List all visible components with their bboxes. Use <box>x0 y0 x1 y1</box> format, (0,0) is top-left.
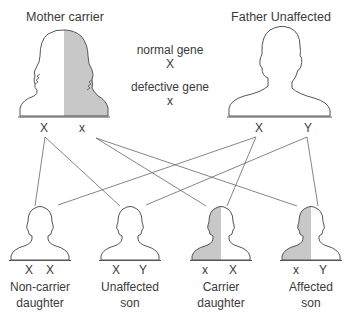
x-linked-inheritance-diagram: Mother carrier Father Unaffected normal … <box>0 0 347 315</box>
child-4-name-line1: Affected <box>271 279 347 296</box>
child-head-carrier-daughter <box>190 207 252 261</box>
father-title: Father Unaffected <box>228 10 334 24</box>
legend-normal-label: normal gene <box>120 43 220 57</box>
legend-defective-symbol: x <box>120 94 220 108</box>
line-father-X-to-carrier-daughter <box>227 137 256 206</box>
line-mother-X-to-noncarrier-daughter <box>35 137 45 206</box>
child-1-allele-1: X <box>19 263 39 277</box>
child-head-unaffected-son <box>99 207 161 261</box>
child-3-name-line1: Carrier <box>181 279 261 296</box>
child-3-name-line2: daughter <box>181 295 261 312</box>
mother-silhouette <box>18 30 110 117</box>
child-3-allele-1: x <box>195 263 215 277</box>
child-head-noncarrier-daughter <box>9 207 71 261</box>
child-4-allele-1: x <box>286 263 306 277</box>
child-4-allele-2: Y <box>313 263 333 277</box>
line-mother-x-to-affected-son <box>96 138 297 206</box>
mother-allele-1: X <box>34 121 54 135</box>
inheritance-lines <box>35 137 318 206</box>
child-2-name-line2: son <box>90 295 170 312</box>
mother-allele-2: x <box>72 121 92 135</box>
father-allele-1: X <box>249 121 269 135</box>
line-mother-x-to-carrier-daughter <box>96 138 206 206</box>
line-mother-X-to-unaffected-son <box>45 137 120 206</box>
child-1-name-line1: Non-carrier <box>0 279 80 296</box>
child-2-allele-1: X <box>106 263 126 277</box>
legend-normal-symbol: X <box>120 57 220 71</box>
child-2-allele-2: Y <box>133 263 153 277</box>
mother-title: Mother carrier <box>20 10 110 24</box>
child-1-name-line2: daughter <box>0 295 80 312</box>
child-head-affected-son <box>280 207 342 261</box>
child-2-name-line1: Unaffected <box>90 279 170 296</box>
father-allele-2: Y <box>298 121 318 135</box>
child-1-allele-2: X <box>40 263 60 277</box>
legend-defective-label: defective gene <box>120 80 220 94</box>
line-father-Y-to-affected-son <box>307 137 318 206</box>
father-silhouette <box>227 26 332 117</box>
child-3-allele-2: X <box>223 263 243 277</box>
child-4-name-line2: son <box>271 295 347 312</box>
